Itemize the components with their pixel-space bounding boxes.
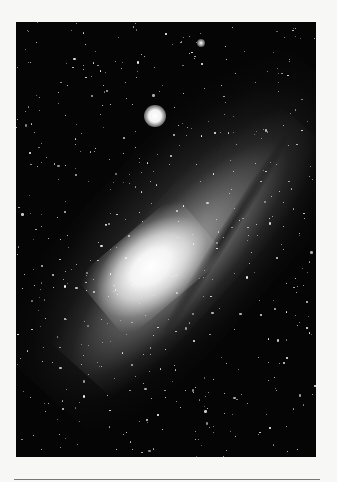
star bbox=[37, 166, 38, 167]
star bbox=[58, 92, 59, 93]
star bbox=[71, 269, 72, 270]
star bbox=[95, 51, 96, 52]
star bbox=[135, 23, 136, 24]
star bbox=[81, 133, 82, 134]
star bbox=[223, 456, 225, 457]
star bbox=[274, 377, 276, 379]
star bbox=[139, 162, 140, 163]
star bbox=[279, 363, 280, 364]
star bbox=[301, 130, 303, 132]
star bbox=[223, 237, 224, 238]
star bbox=[35, 229, 37, 231]
star bbox=[33, 435, 34, 436]
star bbox=[169, 164, 170, 165]
star bbox=[95, 148, 96, 149]
star bbox=[206, 202, 208, 204]
star bbox=[57, 217, 58, 218]
star bbox=[90, 151, 92, 153]
star bbox=[216, 219, 217, 220]
star bbox=[270, 162, 271, 163]
star bbox=[57, 419, 58, 420]
star bbox=[85, 77, 87, 79]
star bbox=[287, 75, 289, 77]
star bbox=[199, 399, 201, 401]
star bbox=[83, 32, 85, 34]
star bbox=[175, 275, 177, 277]
star bbox=[176, 401, 177, 402]
star bbox=[301, 99, 303, 101]
star bbox=[115, 61, 116, 62]
star bbox=[48, 238, 49, 239]
star bbox=[153, 448, 155, 450]
star bbox=[314, 385, 316, 387]
star bbox=[113, 285, 115, 287]
star bbox=[306, 327, 308, 329]
star bbox=[224, 413, 225, 414]
star bbox=[309, 332, 311, 334]
star bbox=[314, 38, 315, 39]
star bbox=[33, 239, 34, 240]
star bbox=[247, 227, 249, 229]
star bbox=[60, 239, 61, 240]
star bbox=[224, 393, 225, 394]
star bbox=[110, 273, 112, 275]
star bbox=[207, 408, 208, 409]
star bbox=[135, 186, 137, 188]
star bbox=[126, 98, 127, 99]
star bbox=[103, 85, 104, 86]
star bbox=[191, 52, 193, 54]
star bbox=[189, 36, 190, 37]
star bbox=[28, 31, 29, 32]
star bbox=[303, 404, 305, 406]
star bbox=[85, 44, 87, 46]
star bbox=[247, 403, 249, 405]
star bbox=[145, 263, 146, 264]
star bbox=[65, 438, 66, 439]
star bbox=[21, 439, 23, 441]
satellite-galaxy bbox=[144, 105, 166, 127]
star bbox=[192, 234, 193, 235]
star bbox=[194, 58, 195, 59]
star bbox=[41, 143, 42, 144]
star bbox=[302, 268, 304, 270]
star bbox=[39, 97, 41, 99]
star bbox=[125, 257, 127, 259]
star bbox=[136, 77, 137, 78]
star bbox=[16, 127, 17, 128]
star bbox=[30, 213, 31, 214]
star bbox=[29, 152, 31, 154]
star bbox=[168, 319, 169, 320]
star bbox=[23, 391, 24, 392]
star bbox=[86, 272, 88, 274]
star bbox=[214, 132, 216, 134]
star bbox=[125, 82, 126, 83]
star bbox=[109, 159, 110, 160]
star bbox=[131, 364, 133, 366]
star bbox=[224, 114, 225, 115]
star bbox=[254, 272, 255, 273]
star bbox=[83, 65, 84, 66]
star bbox=[264, 201, 266, 203]
star bbox=[247, 240, 248, 241]
star bbox=[178, 125, 179, 126]
star bbox=[81, 364, 82, 365]
star bbox=[39, 297, 40, 298]
star bbox=[204, 377, 206, 379]
star bbox=[296, 292, 297, 293]
star bbox=[40, 326, 41, 327]
star bbox=[64, 285, 66, 287]
star bbox=[286, 357, 288, 359]
star bbox=[255, 163, 256, 164]
star bbox=[312, 179, 313, 180]
star bbox=[236, 399, 238, 401]
star bbox=[256, 224, 257, 225]
star bbox=[100, 245, 102, 247]
star bbox=[295, 315, 296, 316]
star bbox=[291, 188, 293, 190]
star bbox=[297, 449, 299, 451]
star bbox=[141, 452, 143, 454]
star bbox=[293, 208, 295, 210]
star bbox=[65, 115, 66, 116]
star bbox=[233, 397, 235, 399]
star bbox=[241, 394, 242, 395]
